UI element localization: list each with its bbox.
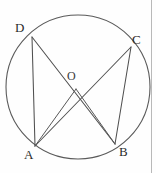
vertex-label-C: C [132, 33, 141, 46]
vertex-label-A: A [24, 148, 33, 161]
vertex-label-B: B [119, 145, 128, 158]
circle-outline [6, 15, 150, 159]
radius-O-B [76, 89, 115, 144]
vertex-label-D: D [15, 21, 24, 34]
geometry-figure: D C A B O [0, 0, 156, 173]
radius-O-A [35, 89, 76, 146]
chord-D-A [32, 37, 35, 146]
chord-D-B [32, 37, 115, 144]
center-label-O: O [67, 70, 76, 82]
